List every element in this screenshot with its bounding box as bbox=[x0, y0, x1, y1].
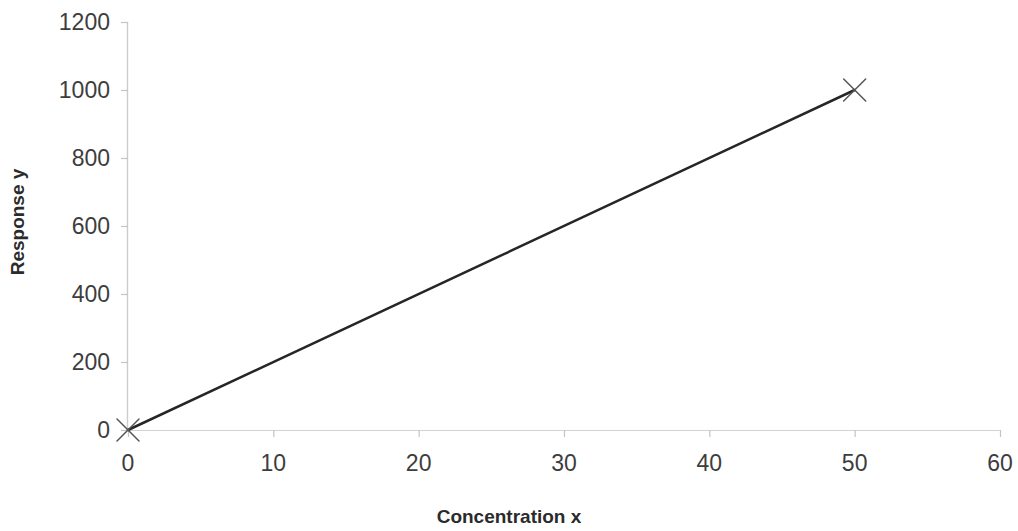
y-tick-label: 400 bbox=[72, 283, 110, 306]
x-tick-label: 60 bbox=[987, 452, 1013, 475]
x-tick-label: 30 bbox=[551, 452, 577, 475]
y-tick-label: 1000 bbox=[59, 79, 110, 102]
y-tick-label: 200 bbox=[72, 351, 110, 374]
y-tick-label: 600 bbox=[72, 215, 110, 238]
y-tick-label: 1200 bbox=[59, 11, 110, 34]
y-axis-title: Response y bbox=[8, 169, 27, 276]
chart-container: 020040060080010001200 0102030405060 Conc… bbox=[0, 0, 1018, 531]
x-tick-label: 40 bbox=[697, 452, 723, 475]
x-tick-label: 0 bbox=[122, 452, 135, 475]
y-tick-label: 0 bbox=[97, 419, 110, 442]
y-tick-label: 800 bbox=[72, 147, 110, 170]
data-point-marker-x bbox=[844, 79, 866, 101]
x-tick-label: 10 bbox=[261, 452, 287, 475]
data-series-group bbox=[128, 90, 855, 430]
series-line bbox=[128, 90, 855, 430]
x-tick-label: 20 bbox=[406, 452, 432, 475]
x-tick-label: 50 bbox=[842, 452, 868, 475]
x-axis-title: Concentration x bbox=[437, 507, 582, 526]
